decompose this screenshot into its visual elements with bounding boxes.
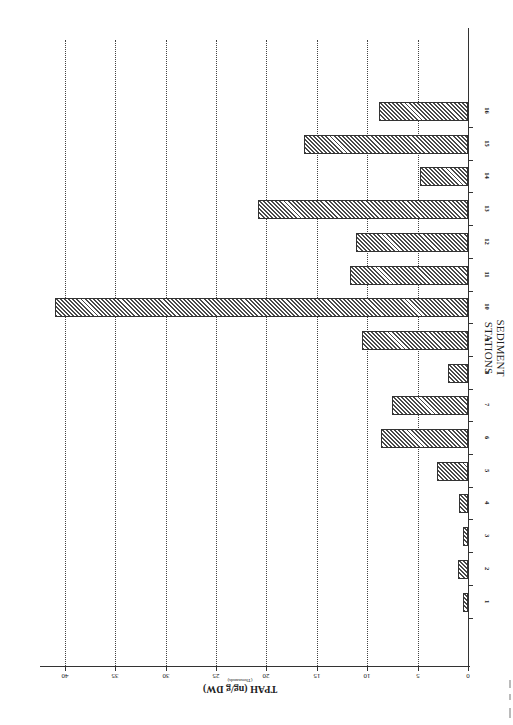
station-label: 15 [484, 136, 491, 150]
gridline [266, 40, 267, 666]
bar-station-5 [437, 462, 468, 481]
bar-station-11 [350, 266, 468, 285]
value-tick [317, 666, 318, 671]
value-tick-label: 0 [460, 672, 476, 680]
station-label: 12 [484, 234, 491, 248]
category-axis-line [468, 28, 469, 666]
station-tick [468, 258, 473, 259]
value-axis-line [40, 666, 470, 667]
station-tick [468, 618, 473, 619]
station-tick [468, 160, 473, 161]
value-tick-label: 15 [309, 672, 325, 680]
bar-station-4 [459, 494, 468, 513]
bar-station-10 [55, 298, 468, 317]
bar-station-2 [458, 560, 468, 579]
scan-edge-mark [509, 694, 511, 700]
gridline [115, 40, 116, 666]
y-axis-title: TPAH (ng/g DW) [185, 684, 295, 695]
station-tick [468, 552, 473, 553]
bar-station-15 [304, 135, 468, 154]
bar-station-1 [463, 593, 468, 612]
station-tick [468, 585, 473, 586]
y-axis-subtitle: (Thousands) [200, 678, 280, 683]
scan-edge-mark [509, 708, 511, 718]
value-tick [266, 666, 267, 671]
station-tick [468, 225, 473, 226]
gridline [166, 40, 167, 666]
station-tick [468, 192, 473, 193]
station-label: 5 [484, 463, 491, 477]
station-label: 11 [484, 267, 491, 281]
station-tick [468, 356, 473, 357]
value-tick-label: 30 [158, 672, 174, 680]
station-tick [468, 421, 473, 422]
bar-station-3 [463, 527, 468, 546]
bar-station-9 [362, 331, 468, 350]
x-axis-title: SEDIMENT STATIONS [483, 293, 507, 403]
station-tick [468, 323, 473, 324]
value-tick [115, 666, 116, 671]
station-tick [468, 389, 473, 390]
station-label: 14 [484, 169, 491, 183]
bar-station-13 [258, 200, 468, 219]
value-tick [166, 666, 167, 671]
value-tick [367, 666, 368, 671]
bar-station-16 [379, 102, 468, 121]
scan-edge-mark [509, 680, 511, 688]
bar-station-12 [356, 233, 468, 252]
station-tick [468, 454, 473, 455]
value-tick-label: 10 [359, 672, 375, 680]
gridline [216, 40, 217, 666]
bar-station-7 [392, 396, 468, 415]
station-tick [468, 291, 473, 292]
value-tick-label: 35 [107, 672, 123, 680]
value-tick-label: 5 [410, 672, 426, 680]
value-tick [418, 666, 419, 671]
station-tick [468, 487, 473, 488]
station-tick [468, 519, 473, 520]
tpah-bar-chart: 0510152025303540 12345678910111213141516… [0, 0, 513, 725]
bar-station-6 [381, 429, 468, 448]
value-tick [65, 666, 66, 671]
station-label: 6 [484, 431, 491, 445]
gridline [65, 40, 66, 666]
station-label: 1 [484, 594, 491, 608]
station-label: 3 [484, 529, 491, 543]
station-label: 4 [484, 496, 491, 510]
value-tick [468, 666, 469, 671]
bar-station-14 [420, 167, 468, 186]
station-label: 2 [484, 561, 491, 575]
station-tick [468, 127, 473, 128]
bar-station-8 [448, 364, 468, 383]
station-label: 13 [484, 202, 491, 216]
value-tick [216, 666, 217, 671]
value-tick-label: 40 [57, 672, 73, 680]
station-label: 16 [484, 104, 491, 118]
